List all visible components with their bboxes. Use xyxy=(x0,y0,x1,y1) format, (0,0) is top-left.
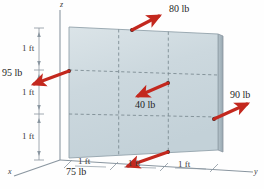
plate-thickness-face xyxy=(218,34,223,152)
vertical-dim-arrow-d xyxy=(37,105,41,110)
vertical-dim-label-1: 1 ft xyxy=(22,44,34,53)
y-axis-label: y xyxy=(254,168,258,176)
vertical-dim-arrow-b xyxy=(37,61,41,66)
horizontal-dim-label-3: 1 ft xyxy=(178,160,190,169)
vertical-dim-label-3: 1 ft xyxy=(22,132,34,141)
force-75lb-label: 75 lb xyxy=(66,167,86,177)
vertical-dimension-group xyxy=(34,28,44,160)
force-95lb-label: 95 lb xyxy=(2,68,22,78)
x-axis-label: x xyxy=(8,168,12,176)
horizontal-dim-label-1: 1 ft xyxy=(78,157,90,166)
force-diagram-figure: z y x 80 lb 95 lb 40 lb 90 lb 75 lb 1 ft… xyxy=(0,0,264,189)
vertical-dim-arrow-e xyxy=(37,118,41,123)
horizontal-tick-3 xyxy=(210,164,218,172)
horizontal-dim-label-2: 1 ft xyxy=(128,159,140,168)
vertical-dim-arrow-f xyxy=(37,151,41,156)
force-80lb-arrow xyxy=(132,16,159,30)
vertical-dim-label-2: 1 ft xyxy=(22,88,34,97)
force-40lb-label: 40 lb xyxy=(135,100,155,110)
vertical-dim-arrow-c xyxy=(37,74,41,79)
force-80lb-label: 80 lb xyxy=(169,4,189,14)
z-axis-label: z xyxy=(60,1,63,9)
x-axis-line xyxy=(14,160,60,176)
force-90lb-label: 90 lb xyxy=(230,90,250,100)
vertical-dim-arrow-a xyxy=(37,32,41,37)
